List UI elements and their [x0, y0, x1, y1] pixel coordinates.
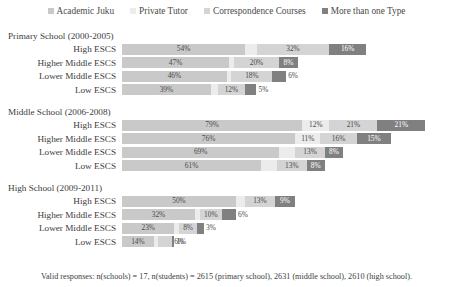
bar-segment: 21%: [377, 120, 425, 131]
bar-segment: 47%: [122, 57, 229, 68]
bar-value-label: 8%: [183, 224, 193, 231]
bar-segment: 39%: [122, 84, 211, 95]
bar-segment: 69%: [122, 147, 279, 158]
chart-footnote: Valid responses: n(schools) = 17, n(stud…: [0, 272, 453, 281]
legend-item[interactable]: Academic Juku: [48, 6, 115, 16]
bar-segment: 8%: [279, 57, 297, 68]
bar-value-label: 11%: [301, 135, 314, 142]
chart-row: Higher Middle ESCS32%2%10%6%: [0, 209, 453, 221]
row-label: Low ESCS: [0, 161, 122, 171]
bar-segment: 5%: [245, 84, 256, 95]
legend-item[interactable]: Private Tutor: [130, 6, 188, 16]
bar-segment: 11%: [295, 133, 320, 144]
chart-row: High ESCS50%4%13%9%: [0, 195, 453, 207]
stacked-bar: 46%2%18%6%: [122, 71, 453, 82]
bar-value-label: 8%: [311, 162, 321, 169]
legend-item[interactable]: Correspondence Courses: [204, 6, 306, 16]
square-marker-icon: [130, 8, 136, 14]
bar-value-label: 32%: [152, 211, 166, 218]
bar-value-label: 46%: [168, 72, 182, 79]
bar-segment: 14%: [122, 236, 154, 247]
bar-segment: 10%: [200, 209, 223, 220]
bar-segment: 13%: [277, 160, 307, 171]
bar-segment: 9%: [275, 196, 296, 207]
row-label: Higher Middle ESCS: [0, 210, 122, 220]
bar-value-label: 79%: [205, 121, 219, 128]
bar-segment: 76%: [122, 133, 295, 144]
bar-segment: 15%: [357, 133, 391, 144]
bar-value-label: 6%: [238, 211, 248, 218]
bar-value-label: 50%: [172, 197, 186, 204]
bar-segment: 6%: [158, 236, 172, 247]
bar-value-label: 39%: [160, 86, 174, 93]
bar-segment: 54%: [122, 44, 245, 55]
bar-segment: 50%: [122, 196, 236, 207]
bar-value-label: 6%: [288, 72, 298, 79]
bar-segment: 23%: [122, 223, 174, 234]
stacked-bar: 39%3%12%5%: [122, 84, 453, 95]
bar-value-label: 9%: [280, 197, 290, 204]
bar-value-label: 1%: [176, 238, 186, 245]
bar-value-label: 5%: [258, 86, 268, 93]
group-title: Primary School (2000-2005): [0, 30, 453, 43]
chart-row: Lower Middle ESCS23%2%8%3%: [0, 222, 453, 234]
chart-row: Low ESCS39%3%12%5%: [0, 84, 453, 96]
legend-item[interactable]: More than one Type: [322, 6, 406, 16]
bar-value-label: 20%: [250, 59, 264, 66]
legend-item-label: Private Tutor: [139, 6, 188, 16]
bar-value-label: 12%: [309, 121, 323, 128]
row-label: Lower Middle ESCS: [0, 147, 122, 157]
row-label: High ESCS: [0, 196, 122, 206]
bar-segment: 20%: [234, 57, 280, 68]
bar-value-label: 10%: [204, 211, 218, 218]
bar-segment: 12%: [218, 84, 245, 95]
chart-row: Low ESCS61%7%13%8%: [0, 160, 453, 172]
stacked-bar: 14%2%6%1%: [122, 236, 453, 247]
bar-value-label: 18%: [245, 72, 259, 79]
row-label: High ESCS: [0, 120, 122, 130]
group-title: Middle School (2006-2008): [0, 106, 453, 119]
bar-value-label: 61%: [185, 162, 199, 169]
chart-row: High ESCS79%12%21%21%: [0, 119, 453, 131]
bar-segment: 16%: [320, 133, 356, 144]
bar-value-label: 3%: [206, 224, 216, 231]
chart-container: Academic JukuPrivate TutorCorrespondence…: [0, 0, 453, 287]
bar-segment: 46%: [122, 71, 227, 82]
row-label: Low ESCS: [0, 237, 122, 247]
bar-value-label: 16%: [341, 45, 355, 52]
bar-value-label: 8%: [329, 148, 339, 155]
bar-segment: 79%: [122, 120, 302, 131]
group-spacer: [0, 97, 453, 106]
bar-segment: 3%: [211, 84, 218, 95]
chart-row: Low ESCS14%2%6%1%: [0, 236, 453, 248]
square-marker-icon: [322, 8, 328, 14]
bar-segment: 12%: [302, 120, 329, 131]
bar-value-label: 13%: [253, 197, 267, 204]
stacked-bar: 76%11%16%15%: [122, 133, 453, 144]
bar-value-label: 14%: [131, 238, 145, 245]
bar-segment: 32%: [257, 44, 330, 55]
bar-segment: 21%: [329, 120, 377, 131]
row-label: Low ESCS: [0, 85, 122, 95]
stacked-bar: 23%2%8%3%: [122, 223, 453, 234]
bar-segment: 18%: [231, 71, 272, 82]
row-label: Lower Middle ESCS: [0, 71, 122, 81]
group-spacer: [0, 173, 453, 182]
chart-plot-area: Primary School (2000-2005)High ESCS54%5%…: [0, 30, 453, 262]
bar-segment: 4%: [236, 196, 245, 207]
bar-value-label: 54%: [177, 45, 191, 52]
stacked-bar: 32%2%10%6%: [122, 209, 453, 220]
stacked-bar: 47%2%20%8%: [122, 57, 453, 68]
bar-segment: 13%: [245, 196, 275, 207]
bar-segment: 3%: [197, 223, 204, 234]
stacked-bar: 69%7%13%8%: [122, 147, 453, 158]
bar-value-label: 47%: [169, 59, 183, 66]
bar-value-label: 15%: [367, 135, 381, 142]
group-title: High School (2009-2011): [0, 182, 453, 195]
bar-value-label: 21%: [395, 121, 409, 128]
bar-segment: 8%: [179, 223, 197, 234]
square-marker-icon: [48, 8, 54, 14]
legend-item-label: Correspondence Courses: [213, 6, 306, 16]
bar-segment: 8%: [325, 147, 343, 158]
row-label: Higher Middle ESCS: [0, 134, 122, 144]
